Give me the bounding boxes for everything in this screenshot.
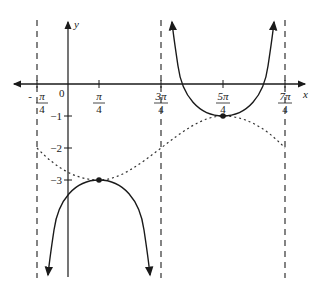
secant-branch-up — [172, 22, 223, 116]
x-tick-label-neg-pi-4: - π 4 — [28, 90, 48, 115]
y-tick-label-neg1: −1 — [50, 110, 62, 122]
svg-text:4: 4 — [220, 103, 226, 115]
svg-text:π: π — [39, 90, 45, 102]
y-tick-label-neg3: −3 — [50, 174, 62, 186]
x-tick-label-5pi-4: 5π 4 — [216, 90, 230, 115]
y-tick-label-neg2: −2 — [50, 142, 62, 154]
svg-text:4: 4 — [158, 103, 164, 115]
svg-text:π: π — [96, 90, 102, 102]
origin-label: 0 — [59, 87, 65, 99]
svg-text:3π: 3π — [154, 90, 167, 102]
point-min-pi-4 — [96, 177, 102, 183]
svg-text:-: - — [28, 90, 32, 102]
svg-text:4: 4 — [39, 103, 45, 115]
secant-branch-down — [48, 180, 99, 275]
x-axis-label: x — [302, 88, 308, 100]
svg-text:7π: 7π — [279, 90, 291, 102]
y-axis-label: y — [73, 18, 79, 30]
dotted-cosine-curve — [37, 116, 285, 180]
x-tick-label-pi-4: π 4 — [93, 90, 105, 115]
asymptotes — [37, 20, 285, 278]
svg-text:4: 4 — [282, 103, 288, 115]
svg-text:4: 4 — [96, 103, 102, 115]
graph: y x 0 - π 4 π 4 3π 4 5π 4 7π 4 −1 −2 −3 — [0, 0, 317, 287]
x-tick-label-3pi-4: 3π 4 — [154, 90, 168, 115]
svg-text:5π: 5π — [217, 90, 229, 102]
point-max-5pi-4 — [220, 113, 226, 119]
x-tick-label-7pi-4: 7π 4 — [278, 90, 292, 115]
